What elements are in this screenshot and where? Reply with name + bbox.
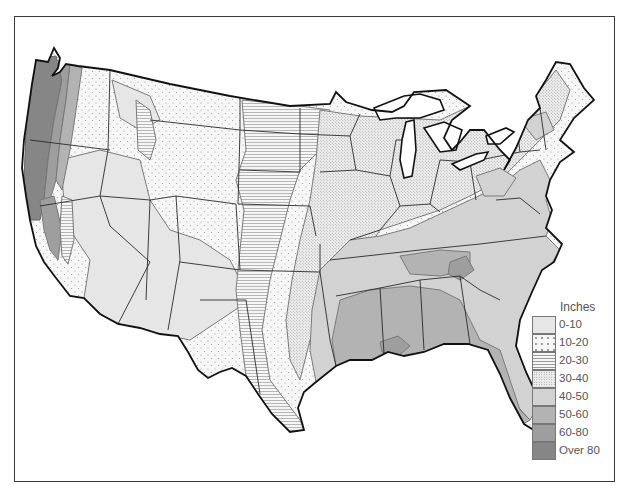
legend-item-50-60: 50-60: [530, 406, 614, 424]
legend-label: 10-20: [559, 336, 588, 348]
legend-item-20-30: 20-30: [530, 352, 614, 370]
legend-label: 40-50: [559, 390, 588, 402]
legend-label: 0-10: [559, 318, 582, 330]
legend-item-over-80: Over 80: [530, 442, 614, 460]
legend-label: 20-30: [559, 354, 588, 366]
legend-item-60-80: 60-80: [530, 424, 614, 442]
legend-swatch: [532, 334, 556, 352]
legend-label: 60-80: [559, 426, 588, 438]
legend-swatch: [532, 406, 556, 424]
legend-swatch: [532, 442, 556, 460]
legend-item-30-40: 30-40: [530, 370, 614, 388]
legend-swatch: [532, 424, 556, 442]
legend-swatch: [532, 388, 556, 406]
legend-label: 50-60: [559, 408, 588, 420]
legend-item-10-20: 10-20: [530, 334, 614, 352]
legend-swatch: [532, 316, 556, 334]
legend-swatch: [532, 352, 556, 370]
legend-item-40-50: 40-50: [530, 388, 614, 406]
legend-swatch: [532, 370, 556, 388]
legend-item-0-10: 0-10: [530, 316, 614, 334]
legend-label: 30-40: [559, 372, 588, 384]
legend-title: Inches: [560, 300, 595, 314]
legend-label: Over 80: [559, 444, 600, 456]
